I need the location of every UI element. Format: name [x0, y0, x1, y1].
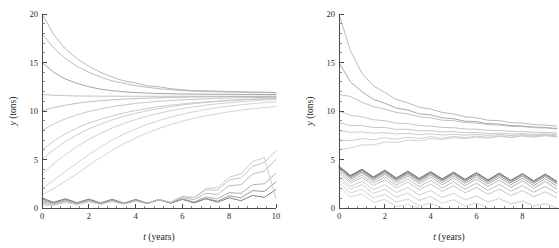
x-tick-label: 6: [474, 211, 478, 221]
data-curve: [339, 63, 557, 129]
x-axis-label: t (years): [433, 232, 464, 243]
curves-group: [339, 14, 557, 208]
x-tick-label: 6: [180, 211, 184, 221]
y-tick-label: 20: [327, 9, 336, 19]
x-tick-label: 8: [227, 211, 231, 221]
x-tick-label: 2: [87, 211, 91, 221]
data-curve: [339, 95, 557, 129]
x-axis-label: t (years): [143, 232, 174, 243]
data-curve: [42, 151, 276, 205]
chart-panel-right: 0510152002468t (years)y (tons): [290, 0, 559, 248]
data-curve: [42, 33, 276, 92]
y-tick-label: 0: [34, 203, 38, 213]
figure-two-panel-line-charts: 051015200246810t (years)y (tons) 0510152…: [0, 0, 559, 248]
data-curve: [42, 98, 276, 149]
left-plot-svg: 051015200246810t (years)y (tons): [0, 0, 290, 248]
x-tick-label: 4: [133, 211, 138, 221]
data-curve: [339, 187, 419, 208]
y-tick-label: 10: [30, 106, 39, 116]
chart-panel-left: 051015200246810t (years)y (tons): [0, 0, 290, 248]
data-curve: [42, 14, 276, 93]
y-tick-label: 20: [30, 9, 39, 19]
y-tick-label: 10: [327, 106, 336, 116]
data-curve: [339, 136, 557, 150]
y-tick-label: 5: [331, 155, 335, 165]
data-curve: [42, 107, 276, 195]
data-curve: [42, 190, 276, 204]
x-tick-label: 0: [337, 211, 341, 221]
right-plot-svg: 0510152002468t (years)y (tons): [290, 0, 559, 248]
y-tick-label: 15: [30, 58, 39, 68]
x-tick-label: 0: [40, 211, 44, 221]
x-tick-label: 8: [520, 211, 524, 221]
data-curve: [339, 183, 442, 208]
data-curve: [42, 160, 276, 204]
x-tick-label: 4: [429, 211, 434, 221]
y-tick-label: 15: [327, 58, 336, 68]
y-axis-label: y (tons): [8, 97, 19, 127]
y-tick-label: 5: [34, 155, 38, 165]
y-axis-label: y (tons): [305, 97, 316, 127]
data-curve: [42, 63, 276, 95]
data-curve: [339, 111, 557, 133]
x-tick-label: 10: [272, 211, 281, 221]
data-curve: [42, 97, 276, 130]
y-tick-label: 0: [331, 203, 335, 213]
x-tick-label: 2: [383, 211, 387, 221]
curves-group: [42, 14, 276, 205]
data-curve: [339, 14, 557, 126]
